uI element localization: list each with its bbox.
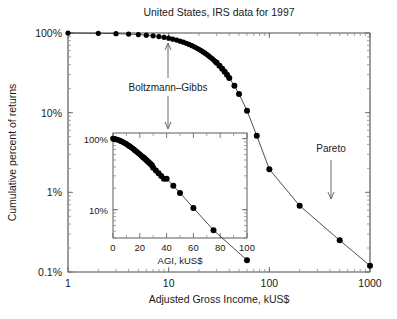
data-point (231, 83, 237, 89)
y-tick-label: 10% (41, 107, 62, 119)
x-tick-label: 10 (163, 277, 175, 289)
data-point (226, 75, 232, 81)
inset-x-tick-label: 40 (161, 242, 172, 253)
inset-data-point (211, 227, 217, 233)
data-point (126, 31, 131, 36)
x-tick-label: 100 (261, 277, 279, 289)
boltzmann-gibbs-arrow-up (165, 43, 171, 78)
inset-x-tick-label: 100 (239, 242, 255, 253)
data-point (156, 34, 161, 39)
y-tick-label: 1% (47, 186, 62, 198)
data-point (244, 108, 250, 114)
data-point (136, 32, 141, 37)
data-point (144, 33, 149, 38)
data-point (113, 31, 118, 36)
y-axis-label: Cumulative percent of returns (6, 84, 18, 222)
inset-data-point (190, 205, 196, 211)
data-point (266, 166, 272, 172)
boltzmann-gibbs-arrow-down (165, 96, 171, 129)
x-axis-label: Adjusted Gross Income, kUS$ (149, 293, 290, 305)
inset-x-axis-label: AGI, kUS$ (158, 255, 204, 266)
inset-y-tick-label: 100% (84, 134, 109, 145)
x-tick-label: 1 (65, 277, 71, 289)
chart-title: United States, IRS data for 1997 (143, 6, 294, 18)
inset-x-tick-label: 0 (110, 242, 115, 253)
x-tick-label: 1000 (358, 277, 382, 289)
inset-x-tick-label: 60 (188, 242, 199, 253)
data-point (367, 263, 373, 269)
inset-y-tick-label: 10% (89, 205, 109, 216)
data-point (65, 30, 70, 35)
data-point (150, 33, 155, 38)
data-point (96, 31, 101, 36)
annotation-pareto: Pareto (316, 143, 346, 154)
data-point (337, 237, 343, 243)
annotation-boltzmann-gibbs: Boltzmann–Gibbs (129, 82, 208, 93)
inset-data-point (244, 257, 250, 263)
data-point (297, 203, 303, 209)
inset-x-tick-label: 80 (215, 242, 226, 253)
chart-figure: United States, IRS data for 199711010010… (0, 0, 397, 319)
inset-data-point (177, 190, 183, 196)
data-point (161, 35, 166, 40)
y-tick-label: 100% (35, 27, 62, 39)
data-point (236, 91, 242, 97)
data-point (254, 133, 260, 139)
inset-x-tick-label: 20 (135, 242, 146, 253)
pareto-arrow (328, 160, 334, 199)
inset-data-point (164, 176, 170, 182)
y-tick-label: 0.1% (38, 266, 62, 278)
irs-cumulative-distribution-chart: United States, IRS data for 199711010010… (0, 0, 397, 319)
inset-data-point (170, 183, 176, 189)
